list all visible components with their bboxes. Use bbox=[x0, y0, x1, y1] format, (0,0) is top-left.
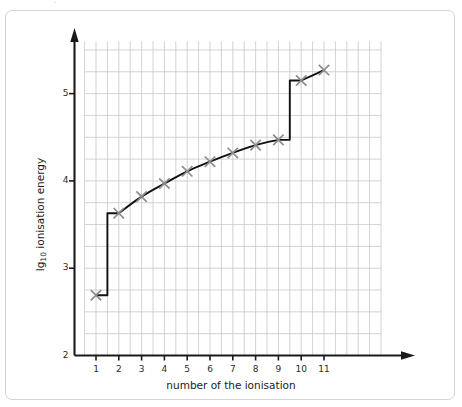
x-tick-label: 5 bbox=[177, 364, 197, 374]
gridlines bbox=[85, 41, 381, 355]
figure-page: · number of the ionisation lg10 ionisati… bbox=[0, 0, 462, 407]
ionisation-energy-line-chart bbox=[0, 0, 462, 407]
axes bbox=[70, 28, 415, 360]
y-axis-title-subscript: 10 bbox=[39, 252, 48, 262]
y-tick-label: 2 bbox=[59, 350, 69, 360]
x-tick-label: 1 bbox=[86, 364, 106, 374]
y-axis-title: lg10 ionisation energy bbox=[34, 158, 46, 271]
x-tick-label: 3 bbox=[132, 364, 152, 374]
x-axis-title: number of the ionisation bbox=[0, 379, 462, 391]
x-tick-label: 6 bbox=[200, 364, 220, 374]
x-tick-label: 11 bbox=[314, 364, 334, 374]
y-axis-title-rest: ionisation energy bbox=[34, 158, 46, 252]
x-tick-label: 4 bbox=[154, 364, 174, 374]
x-tick-label: 10 bbox=[291, 364, 311, 374]
y-axis-title-main: lg bbox=[34, 262, 46, 272]
y-tick-label: 5 bbox=[59, 88, 69, 98]
y-tick-label: 4 bbox=[59, 175, 69, 185]
x-tick-label: 7 bbox=[223, 364, 243, 374]
x-tick-label: 8 bbox=[246, 364, 266, 374]
y-tick-label: 3 bbox=[59, 262, 69, 272]
y-axis-title-wrapper: lg10 ionisation energy bbox=[29, 100, 48, 330]
x-tick-label: 9 bbox=[268, 364, 288, 374]
chart-plot-area: number of the ionisation lg10 ionisation… bbox=[0, 0, 462, 407]
x-tick-label: 2 bbox=[109, 364, 129, 374]
